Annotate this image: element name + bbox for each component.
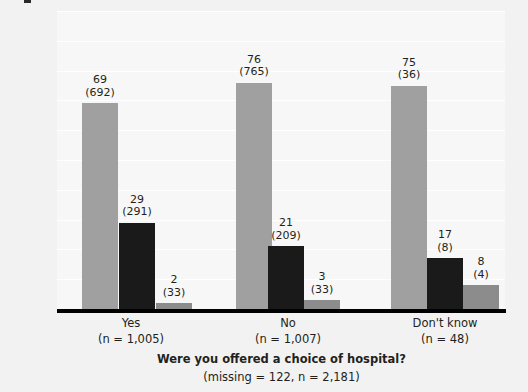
bar-count: (33)	[282, 284, 362, 297]
gridline	[57, 160, 505, 161]
x-axis-category-name: Yes	[61, 315, 201, 331]
bar-chart-figure: Percentage (number) of respondents Were …	[0, 0, 528, 392]
bar-percentage: 8	[441, 256, 521, 269]
bar-count: (692)	[60, 87, 140, 100]
gridline	[57, 100, 505, 101]
cropped-caption-fragment	[24, 0, 31, 3]
bar	[391, 86, 427, 310]
bar-count: (765)	[214, 66, 294, 79]
bar-value-label: 69(692)	[60, 74, 140, 99]
x-axis-category-name: No	[218, 315, 358, 331]
gridline	[57, 130, 505, 131]
x-axis-category-name: Don't know	[375, 315, 515, 331]
x-axis-title: Were you offered a choice of hospital?	[57, 352, 506, 366]
bar-value-label: 75(36)	[369, 57, 449, 82]
bar	[304, 300, 340, 309]
x-axis-group-label: Don't know(n = 48)	[375, 315, 515, 347]
bar-count: (33)	[134, 287, 214, 300]
bar-value-label: 76(765)	[214, 54, 294, 79]
bar-count: (209)	[246, 230, 326, 243]
bar-count: (4)	[441, 269, 521, 282]
x-axis-group-label: Yes(n = 1,005)	[61, 315, 201, 347]
gridline	[57, 190, 505, 191]
bar-percentage: 2	[134, 274, 214, 287]
bar-value-label: 3(33)	[282, 271, 362, 296]
x-axis-subtitle: (missing = 122, n = 2,181)	[57, 370, 506, 384]
gridline	[57, 41, 505, 42]
x-axis-category-n: (n = 1,005)	[61, 331, 201, 347]
bar-value-label: 21(209)	[246, 217, 326, 242]
x-axis-category-n: (n = 48)	[375, 331, 515, 347]
bar-value-label: 17(8)	[405, 229, 485, 254]
bar-value-label: 2(33)	[134, 274, 214, 299]
bar-percentage: 69	[60, 74, 140, 87]
bar-count: (36)	[369, 69, 449, 82]
x-axis-line	[57, 309, 506, 313]
x-axis-category-n: (n = 1,007)	[218, 331, 358, 347]
bar-count: (8)	[405, 242, 485, 255]
bar-percentage: 3	[282, 271, 362, 284]
gridline	[57, 11, 505, 12]
x-axis-group-label: No(n = 1,007)	[218, 315, 358, 347]
bar-value-label: 29(291)	[97, 194, 177, 219]
bar	[236, 83, 272, 309]
bar-value-label: 8(4)	[441, 256, 521, 281]
bar	[463, 285, 499, 309]
bar-percentage: 17	[405, 229, 485, 242]
bar-count: (291)	[97, 206, 177, 219]
